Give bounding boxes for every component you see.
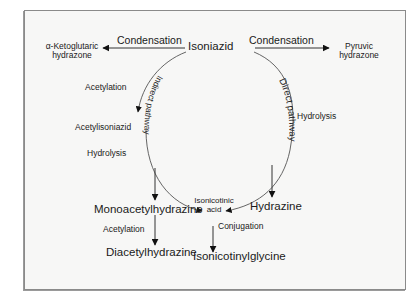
node-isoniazid: Isoniazid — [188, 40, 233, 53]
label-acetylation-1: Acetylation — [85, 83, 127, 92]
node-pyruvic-hydrazone: Pyruvic hydrazone — [331, 42, 387, 61]
node-monoacetylhydrazine: Monoacetylhydrazine — [94, 203, 203, 216]
direct-pathway-label: Direct pathway — [277, 76, 298, 142]
node-diacetylhydrazine: Diacetylhydrazine — [106, 246, 197, 259]
node-hydrazine: Hydrazine — [250, 200, 302, 213]
node-alpha-ketoglutaric-hydrazone: α-Ketoglutaric hydrazone — [40, 42, 104, 61]
label-condensation-right: Condensation — [249, 35, 314, 47]
label-hydrolysis-left: Hydrolysis — [87, 149, 126, 158]
label-acetylation-2: Acetylation — [103, 225, 145, 234]
arc-direct-pathway — [226, 52, 293, 211]
indirect-pathway-label: Indirect pathway — [142, 74, 165, 135]
node-acetylisoniazid: Acetylisoniazid — [75, 123, 131, 132]
alpha-keto-line2: hydrazone — [40, 51, 104, 60]
pyruvic-line2: hydrazone — [331, 51, 387, 60]
node-isonicotinylglycine: Isonicotinylglycine — [193, 250, 286, 263]
label-hydrolysis-right: Hydrolysis — [297, 112, 336, 121]
label-conjugation: Conjugation — [218, 222, 263, 231]
label-condensation-left: Condensation — [117, 35, 182, 47]
